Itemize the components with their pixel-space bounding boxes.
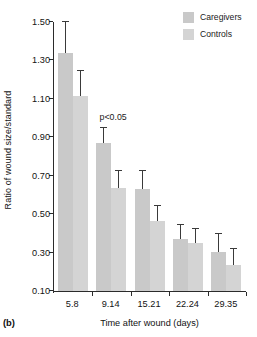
- error-bar: [180, 225, 181, 239]
- y-axis-tick-label: 0.70: [32, 171, 50, 181]
- x-axis-tick-label: 5.8: [66, 299, 79, 309]
- x-axis-tick: [169, 292, 170, 296]
- bar: [173, 239, 188, 291]
- y-axis-tick-label: 0.50: [32, 209, 50, 219]
- error-bar: [65, 22, 66, 53]
- error-bar: [103, 128, 104, 143]
- figure-panel-b: Caregivers Controls Ratio of wound size/…: [0, 0, 257, 337]
- x-axis-tick: [208, 292, 209, 296]
- y-axis-tick-label: 0.30: [32, 248, 50, 258]
- error-bar: [195, 229, 196, 243]
- bar: [58, 53, 73, 291]
- x-axis-tick-label: 9.14: [102, 299, 120, 309]
- x-axis-tick: [92, 292, 93, 296]
- error-bar-cap: [77, 70, 84, 71]
- error-bar: [80, 71, 81, 96]
- y-axis-tick-label: 1.10: [32, 94, 50, 104]
- p-value-annotation: p<0.05: [100, 112, 127, 122]
- bar: [73, 96, 88, 291]
- error-bar-cap: [230, 248, 237, 249]
- y-axis-tick-label: 0.10: [32, 286, 50, 296]
- x-axis-tick-label: 15.21: [138, 299, 161, 309]
- y-axis-tick-label: 0.90: [32, 132, 50, 142]
- y-axis-line: [53, 22, 54, 293]
- plot-area: 0.100.300.500.700.901.101.301.50 p<0.05: [53, 22, 245, 292]
- error-bar-cap: [154, 205, 161, 206]
- error-bar-cap: [115, 170, 122, 171]
- error-bar-cap: [192, 228, 199, 229]
- bar: [135, 189, 150, 291]
- x-axis-line: [53, 291, 246, 292]
- error-bar-cap: [62, 21, 69, 22]
- y-axis-title-text: Ratio of wound size/standard: [3, 91, 13, 210]
- error-bar: [157, 206, 158, 221]
- error-bar: [233, 249, 234, 265]
- bar: [111, 188, 126, 291]
- x-axis-tick-label: 22.24: [176, 299, 199, 309]
- bar: [150, 221, 165, 291]
- error-bar: [118, 171, 119, 188]
- bar: [211, 252, 226, 291]
- x-axis-tick: [246, 292, 247, 296]
- bar: [226, 265, 241, 291]
- bar: [96, 143, 111, 291]
- x-axis-tick: [131, 292, 132, 296]
- panel-label: (b): [3, 317, 15, 328]
- error-bar-cap: [139, 170, 146, 171]
- y-axis-title: Ratio of wound size/standard: [0, 0, 16, 300]
- y-axis-tick-label: 1.50: [32, 17, 50, 27]
- x-axis-tick-label: 29.35: [214, 299, 237, 309]
- bar: [188, 243, 203, 291]
- error-bar-cap: [100, 127, 107, 128]
- error-bar: [218, 234, 219, 251]
- y-axis-tick-label: 1.30: [32, 55, 50, 65]
- error-bar-cap: [177, 224, 184, 225]
- error-bar-cap: [215, 233, 222, 234]
- error-bar: [142, 171, 143, 189]
- x-axis-title: Time after wound (days): [53, 318, 246, 328]
